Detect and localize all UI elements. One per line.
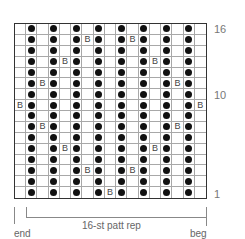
- dot-symbol-icon: [95, 47, 102, 54]
- bead-symbol: B: [174, 79, 180, 88]
- chart-cell: [105, 89, 116, 100]
- chart-cell: [94, 165, 105, 176]
- dot-symbol-icon: [95, 134, 102, 141]
- chart-cell: [195, 89, 206, 100]
- chart-cell: [161, 100, 172, 111]
- chart-cell: [49, 155, 60, 166]
- dot-symbol-icon: [163, 167, 170, 174]
- dot-symbol-icon: [50, 178, 57, 185]
- chart-cell: [94, 187, 105, 198]
- dot-symbol-icon: [163, 102, 170, 109]
- chart-cell: [37, 57, 48, 68]
- chart-cell: [195, 133, 206, 144]
- chart-cell: [60, 46, 71, 57]
- chart-cell: [71, 89, 82, 100]
- chart-cell: [49, 133, 60, 144]
- dot-symbol-icon: [163, 91, 170, 98]
- chart-cell: [26, 68, 37, 79]
- chart-cell: [94, 111, 105, 122]
- dot-symbol-icon: [28, 167, 35, 174]
- chart-cell: [127, 144, 138, 155]
- dot-symbol-icon: [185, 145, 192, 152]
- dot-symbol-icon: [95, 102, 102, 109]
- chart-cell: [184, 133, 195, 144]
- chart-cell: [82, 144, 93, 155]
- chart-cell: [161, 165, 172, 176]
- chart-cell: [184, 100, 195, 111]
- chart-cell: [71, 100, 82, 111]
- dot-symbol-icon: [28, 36, 35, 43]
- row-label-10: 10: [214, 89, 226, 101]
- chart-cell: [26, 35, 37, 46]
- chart-cell: [184, 122, 195, 133]
- dot-symbol-icon: [73, 167, 80, 174]
- chart-cell: [60, 111, 71, 122]
- chart-cell: [127, 111, 138, 122]
- chart-cell: [82, 111, 93, 122]
- dot-symbol-icon: [118, 178, 125, 185]
- chart-cell: [94, 46, 105, 57]
- dot-symbol-icon: [28, 123, 35, 130]
- dot-symbol-icon: [163, 36, 170, 43]
- dot-symbol-icon: [185, 25, 192, 32]
- chart-cell: [127, 68, 138, 79]
- dot-symbol-icon: [163, 25, 170, 32]
- chart-cell: B: [127, 35, 138, 46]
- dot-symbol-icon: [73, 69, 80, 76]
- repeat-label: 16-st patt rep: [82, 220, 141, 231]
- chart-cell: [15, 144, 26, 155]
- dot-symbol-icon: [73, 58, 80, 65]
- chart-cell: [150, 133, 161, 144]
- dot-symbol-icon: [73, 123, 80, 130]
- dot-symbol-icon: [163, 80, 170, 87]
- dot-symbol-icon: [185, 178, 192, 185]
- chart-cell: [184, 89, 195, 100]
- chart-cell: [150, 111, 161, 122]
- chart-cell: [172, 100, 183, 111]
- chart-cell: [26, 122, 37, 133]
- dot-symbol-icon: [185, 36, 192, 43]
- chart-cell: [161, 89, 172, 100]
- dot-symbol-icon: [140, 134, 147, 141]
- dot-symbol-icon: [73, 47, 80, 54]
- dot-symbol-icon: [185, 112, 192, 119]
- chart-cell: [71, 46, 82, 57]
- dot-symbol-icon: [118, 102, 125, 109]
- chart-cell: [105, 24, 116, 35]
- dot-symbol-icon: [163, 123, 170, 130]
- chart-cell: [94, 68, 105, 79]
- chart-cell: [26, 187, 37, 198]
- chart-cell: [150, 89, 161, 100]
- chart-cell: [37, 133, 48, 144]
- dot-symbol-icon: [73, 134, 80, 141]
- chart-cell: [195, 144, 206, 155]
- chart-cell: [94, 78, 105, 89]
- bead-symbol: B: [107, 188, 113, 197]
- chart-cell: B: [127, 165, 138, 176]
- chart-cell: [161, 187, 172, 198]
- dot-symbol-icon: [185, 58, 192, 65]
- bead-symbol: B: [152, 57, 158, 66]
- chart-cell: [139, 78, 150, 89]
- dot-symbol-icon: [140, 189, 147, 196]
- dot-symbol-icon: [118, 58, 125, 65]
- chart-cell: [195, 165, 206, 176]
- chart-cell: [15, 68, 26, 79]
- dot-symbol-icon: [73, 91, 80, 98]
- dot-symbol-icon: [140, 36, 147, 43]
- chart-cell: [60, 165, 71, 176]
- chart-cell: [184, 144, 195, 155]
- chart-cell: [37, 68, 48, 79]
- chart-cell: [37, 165, 48, 176]
- bead-symbol: B: [17, 101, 23, 110]
- chart-cell: [37, 144, 48, 155]
- chart-cell: [116, 100, 127, 111]
- chart-cell: [26, 24, 37, 35]
- dot-symbol-icon: [118, 36, 125, 43]
- knitting-chart-grid: BBBBBBBBBBBBBBB: [14, 23, 207, 199]
- chart-cell: [105, 144, 116, 155]
- chart-cell: [37, 35, 48, 46]
- dot-symbol-icon: [118, 47, 125, 54]
- chart-cell: [139, 35, 150, 46]
- dot-symbol-icon: [118, 167, 125, 174]
